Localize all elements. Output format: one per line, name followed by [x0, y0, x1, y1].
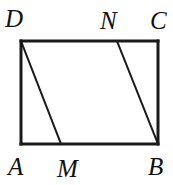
vertex-label-A: A — [8, 154, 23, 179]
vertex-label-M: M — [57, 156, 78, 181]
geometry-figure: D N C A M B — [0, 0, 173, 185]
vertex-label-B: B — [148, 154, 163, 179]
vertex-label-C: C — [150, 8, 167, 33]
vertex-label-N: N — [100, 8, 117, 33]
vertex-label-D: D — [5, 6, 23, 31]
